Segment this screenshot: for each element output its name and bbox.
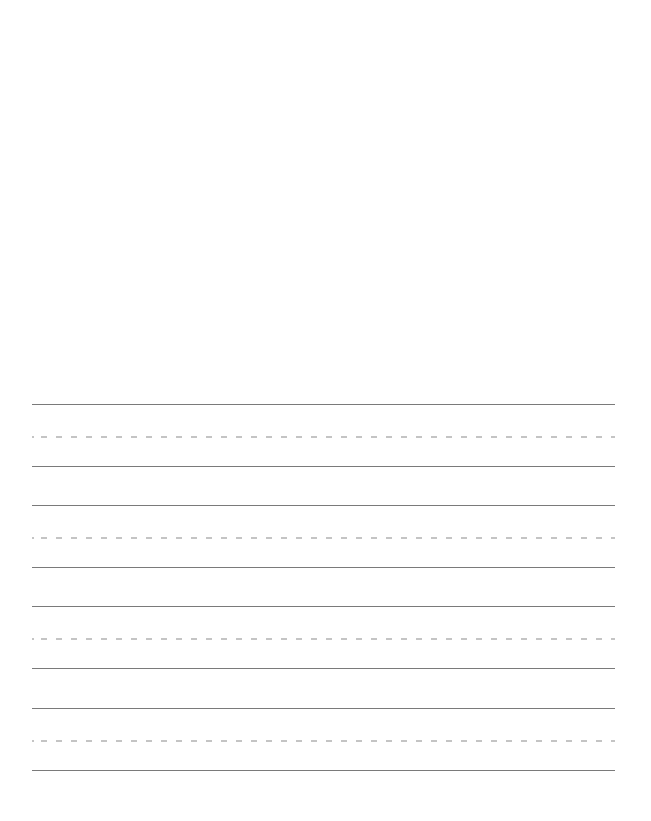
baseline — [32, 466, 615, 467]
top-line — [32, 606, 615, 607]
top-line — [32, 404, 615, 405]
practice-row-4 — [32, 708, 615, 772]
baseline — [32, 567, 615, 568]
top-line — [32, 708, 615, 709]
practice-row-2 — [32, 505, 615, 569]
midline-dashed — [32, 740, 615, 742]
practice-row-1 — [32, 404, 615, 468]
baseline — [32, 770, 615, 771]
midline-dashed — [32, 638, 615, 640]
top-line — [32, 505, 615, 506]
midline-dashed — [32, 436, 615, 438]
midline-dashed — [32, 537, 615, 539]
drawing-area — [0, 0, 651, 390]
practice-row-3 — [32, 606, 615, 670]
baseline — [32, 668, 615, 669]
